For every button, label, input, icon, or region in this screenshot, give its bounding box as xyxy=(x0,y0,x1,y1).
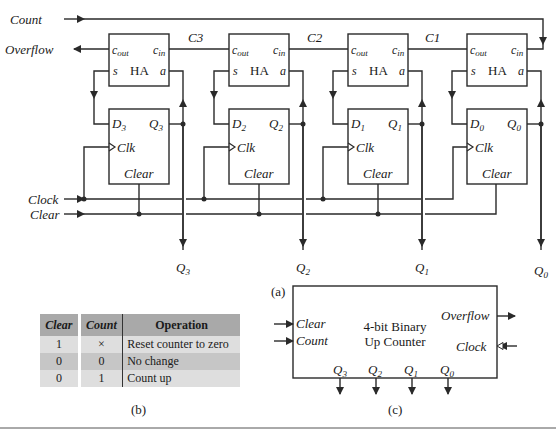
ha-name-label: HA xyxy=(488,63,507,78)
carry-label-c2: C2 xyxy=(307,30,323,45)
junction-dot xyxy=(376,212,381,217)
junction-dot xyxy=(181,122,186,127)
clock-tap-wire xyxy=(204,147,229,199)
ha-a-label: a xyxy=(160,64,166,78)
half-adder-2 xyxy=(229,34,289,86)
count-to-cin-wire xyxy=(527,44,543,49)
block-count-label: Count xyxy=(296,333,328,348)
q-output-label: Q1 xyxy=(415,260,429,277)
ha-a-label: a xyxy=(399,64,405,78)
ff-clear-label: Clear xyxy=(363,166,394,181)
junction-dot xyxy=(321,197,326,202)
junction-dot xyxy=(137,212,142,217)
figure-c-caption: (c) xyxy=(388,402,402,417)
half-adder-0 xyxy=(467,34,527,86)
count-input-label: Count xyxy=(10,12,42,27)
stage-0: cout cin s HA a D0 Q0 Clk Clear Q0 xyxy=(452,34,548,280)
s-to-d-wire-2 xyxy=(214,98,229,124)
q-to-a-wire xyxy=(408,71,422,100)
s-to-d-wire-2 xyxy=(452,98,467,124)
cell-clear: 0 xyxy=(40,353,79,370)
block-clock-label: Clock xyxy=(456,339,487,354)
block-title-line1: 4-bit Binary xyxy=(363,319,427,334)
header-operation: Operation xyxy=(123,314,240,336)
junction-dot xyxy=(420,122,425,127)
stage-1: cout cin s HA a D1 Q1 Clk Clear Q1 xyxy=(321,34,429,277)
figure-b-caption: (b) xyxy=(131,402,146,417)
ha-s-label: s xyxy=(113,64,118,78)
clock-tap-wire xyxy=(323,147,348,199)
header-count: Count xyxy=(79,314,122,336)
carry-label-c1: C1 xyxy=(425,30,440,45)
junction-dot xyxy=(539,122,544,127)
q-output-label: Q0 xyxy=(534,263,548,280)
operation-table: Clear Count Operation 1 × Reset counter … xyxy=(40,314,240,387)
overflow-output-label: Overflow xyxy=(5,42,54,57)
ha-s-label: s xyxy=(471,64,476,78)
ha-name-label: HA xyxy=(250,63,269,78)
half-adder-3 xyxy=(109,34,169,86)
ff-clk-label: Clk xyxy=(356,140,374,155)
q-to-a-wire xyxy=(289,71,303,100)
cell-clear: 0 xyxy=(40,370,79,387)
clock-input-label: Clock xyxy=(28,192,59,207)
ha-a-label: a xyxy=(518,64,524,78)
ha-name-label: HA xyxy=(130,63,149,78)
q-output-label: Q2 xyxy=(296,260,310,277)
ha-s-label: s xyxy=(352,64,357,78)
block-clear-label: Clear xyxy=(296,316,327,331)
block-title-line2: Up Counter xyxy=(364,334,426,349)
q-to-a-wire xyxy=(169,71,183,100)
ff-clear-label: Clear xyxy=(482,166,513,181)
s-to-d-wire xyxy=(333,71,348,98)
q-to-a-wire xyxy=(527,71,541,100)
clear-input-label: Clear xyxy=(30,207,61,222)
figure-a-caption: (a) xyxy=(271,284,285,299)
cell-operation: No change xyxy=(123,353,240,370)
cell-count: 1 xyxy=(79,370,122,387)
cell-operation: Reset counter to zero xyxy=(123,336,240,353)
junction-dot xyxy=(202,197,207,202)
ff-clk-label: Clk xyxy=(117,140,135,155)
ha-name-label: HA xyxy=(369,63,388,78)
cell-count: × xyxy=(79,336,122,353)
cell-count: 0 xyxy=(79,353,122,370)
ha-s-label: s xyxy=(233,64,238,78)
ff-clk-label: Clk xyxy=(237,140,255,155)
ff-clear-label: Clear xyxy=(124,166,155,181)
carry-label-c3: C3 xyxy=(188,30,204,45)
table-row: 0 0 No change xyxy=(40,353,240,370)
junction-dot xyxy=(82,197,87,202)
junction-dot xyxy=(257,212,262,217)
half-adder-1 xyxy=(348,34,408,86)
ha-a-label: a xyxy=(280,64,286,78)
table-row: 1 × Reset counter to zero xyxy=(40,336,240,353)
cell-operation: Count up xyxy=(123,370,240,387)
s-to-d-wire-2 xyxy=(333,98,348,124)
cell-clear: 1 xyxy=(40,336,79,353)
header-clear: Clear xyxy=(40,314,79,336)
ff-clk-label: Clk xyxy=(475,140,493,155)
figure-c-block: 4-bit Binary Up Counter Clear Count Over… xyxy=(274,286,517,417)
s-to-d-wire xyxy=(452,71,467,98)
s-to-d-wire xyxy=(214,71,229,98)
table-header-row: Clear Count Operation xyxy=(40,314,240,336)
clock-tap-wire xyxy=(84,147,109,199)
s-to-d-wire xyxy=(94,71,109,98)
stage-2: cout cin s HA a D2 Q2 Clk Clear Q2 xyxy=(202,34,311,277)
junction-dot xyxy=(301,122,306,127)
block-overflow-label: Overflow xyxy=(441,308,490,323)
stage-3: cout cin s HA a D3 Q3 Clk Clear Q3 xyxy=(82,34,191,277)
q-output-label: Q3 xyxy=(176,260,190,277)
table-row: 0 1 Count up xyxy=(40,370,240,387)
s-to-d-wire-2 xyxy=(94,98,109,124)
clock-edge-triangle-icon xyxy=(497,343,503,350)
ff-clear-label: Clear xyxy=(244,166,275,181)
